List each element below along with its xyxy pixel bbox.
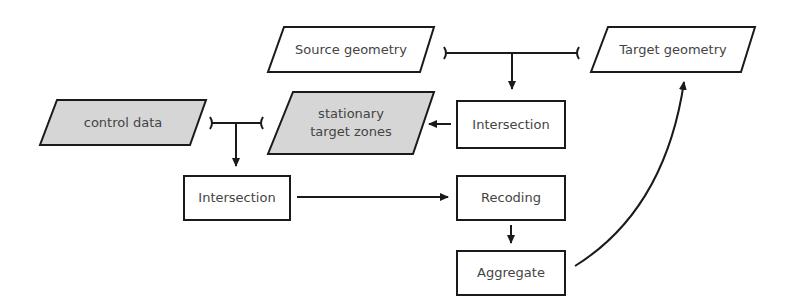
recoding-label: Recoding [481, 190, 541, 206]
stationary-target-zones-label: stationary target zones [310, 105, 391, 141]
top-join-connector [444, 47, 579, 89]
control-data-label: control data [84, 115, 162, 131]
left-join-connector [210, 117, 263, 166]
stationary-target-zones-line2: target zones [310, 123, 391, 141]
intersection-left-label: Intersection [198, 190, 275, 206]
intersection-right-label: Intersection [472, 117, 549, 133]
target-geometry-label: Target geometry [619, 42, 726, 58]
stationary-target-zones-line1: stationary [310, 105, 391, 123]
arrow-aggregate-to-target-geometry [575, 82, 684, 266]
aggregate-label: Aggregate [477, 265, 545, 281]
source-geometry-label: Source geometry [295, 42, 407, 58]
